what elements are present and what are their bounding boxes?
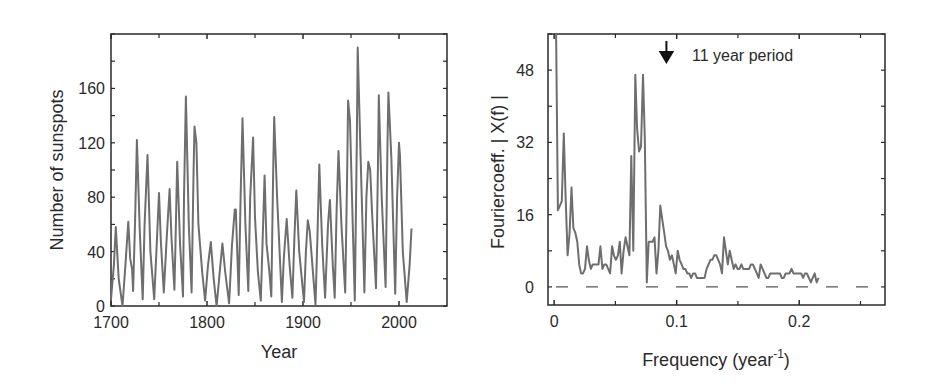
x-axis-label-superscript: -1 [773, 347, 784, 361]
y-tick-labels: 0163248 [516, 62, 534, 296]
sunspot-series-line [111, 48, 412, 306]
y-axis-label: Fouriercoeff. | X(f) | [488, 95, 508, 249]
y-axis-label: Number of sunspots [47, 89, 67, 250]
y-tick-label: 48 [516, 62, 534, 79]
y-tick-label: 0 [96, 298, 105, 315]
annotation-text: 11 year period [692, 47, 793, 64]
x-tick-label: 0.1 [666, 313, 688, 330]
annotation-11-year-period: 11 year period [660, 41, 793, 64]
y-tick-label: 160 [78, 80, 105, 97]
sunspot-chart: 1700180019002000 04080120160 Year Number… [47, 34, 447, 362]
y-tick-label: 0 [525, 279, 534, 296]
x-tick-label: 1900 [285, 314, 321, 331]
x-tick-label: 0 [550, 313, 559, 330]
x-tick-label: 2000 [381, 314, 417, 331]
x-axis-label: Year [261, 342, 297, 362]
x-axis-label-main: Frequency (year [642, 350, 773, 370]
x-axis-label-close: ) [784, 350, 790, 370]
x-tick-label: 0.2 [788, 313, 810, 330]
down-arrow-icon [660, 41, 672, 62]
y-tick-label: 80 [87, 189, 105, 206]
y-tick-label: 120 [78, 135, 105, 152]
y-tick-labels: 04080120160 [78, 80, 105, 315]
fourier-chart: 00.10.2 0163248 11 year period Frequency… [488, 34, 885, 370]
y-tick-label: 16 [516, 207, 534, 224]
figure-canvas: 1700180019002000 04080120160 Year Number… [0, 0, 925, 386]
x-axis-label: Frequency (year-1) [642, 347, 790, 370]
x-tick-label: 1700 [93, 314, 129, 331]
x-tick-label: 1800 [189, 314, 225, 331]
y-tick-label: 40 [87, 244, 105, 261]
y-tick-label: 32 [516, 134, 534, 151]
x-tick-labels: 1700180019002000 [93, 314, 417, 331]
x-tick-labels: 00.10.2 [550, 313, 811, 330]
spectrum-series-line [556, 34, 819, 282]
figure: 1700180019002000 04080120160 Year Number… [0, 0, 925, 386]
